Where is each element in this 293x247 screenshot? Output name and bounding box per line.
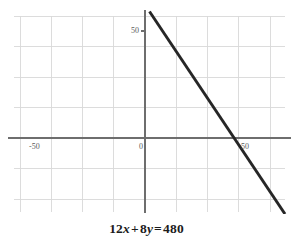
caption-plus: +: [130, 221, 140, 236]
caption-constant: 480: [163, 221, 184, 236]
coordinate-plane: [0, 0, 293, 214]
plot-background: [0, 0, 293, 214]
equation-caption: 12x+8y=480: [0, 221, 293, 237]
graph-figure: 50 -50 0 50 12x+8y=480: [0, 0, 293, 247]
x-tick-label-origin: 0: [131, 143, 143, 151]
x-tick-label-50: 50: [241, 143, 261, 151]
x-tick-label-neg50: -50: [29, 143, 53, 151]
caption-var-x: x: [123, 221, 130, 236]
y-tick-label-50: 50: [117, 27, 139, 35]
caption-coef-x: 12: [109, 221, 123, 236]
caption-coef-y: 8: [140, 221, 147, 236]
caption-equals: =: [153, 221, 163, 236]
